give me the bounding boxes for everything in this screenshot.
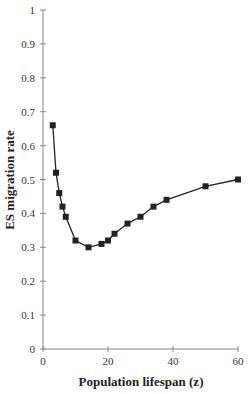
data-point-marker [203,183,209,189]
data-point-marker [164,197,170,203]
data-point-marker [235,177,241,183]
y-tick-label: 0.3 [21,241,35,253]
y-tick-label: 0 [30,343,36,355]
line-chart: 00.10.20.30.40.50.60.70.80.91 0204060 ES… [0,0,252,394]
plot-area [50,122,241,250]
y-tick-label: 0.2 [21,275,35,287]
y-tick-label: 0.7 [21,106,35,118]
y-tick-label: 0.8 [21,72,35,84]
x-tick-label: 60 [233,355,245,367]
x-tick-label: 0 [40,355,46,367]
y-tick-label: 0.9 [21,38,35,50]
x-axis-title: Population lifespan (z) [79,374,204,389]
data-point-marker [50,122,56,128]
series-line [53,125,238,247]
data-point-marker [53,170,59,176]
data-point-marker [99,241,105,247]
y-tick-label: 0.1 [21,309,35,321]
y-tick-label: 1 [30,4,36,16]
data-point-marker [105,238,111,244]
data-point-marker [86,244,92,250]
data-point-marker [112,231,118,237]
data-point-marker [151,204,157,210]
data-point-marker [56,190,62,196]
data-point-marker [63,214,69,220]
x-axis: 0204060 [40,346,244,367]
y-tick-label: 0.6 [21,140,35,152]
y-tick-label: 0.4 [21,207,35,219]
y-tick-label: 0.5 [21,174,35,186]
data-point-marker [125,221,131,227]
y-axis: 00.10.20.30.40.50.60.70.80.91 [21,4,46,355]
data-point-marker [60,204,66,210]
y-axis-title: ES migration rate [2,130,17,230]
x-tick-label: 40 [168,355,180,367]
x-tick-label: 20 [103,355,115,367]
data-point-marker [138,214,144,220]
data-point-marker [73,238,79,244]
